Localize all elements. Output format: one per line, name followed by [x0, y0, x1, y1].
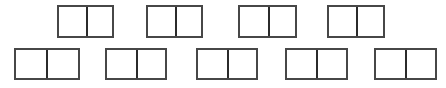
rectangle-top-3	[238, 5, 297, 38]
cell-divider-top-2	[175, 7, 177, 36]
figure-canvas	[0, 0, 446, 88]
cell-divider-top-4	[356, 7, 358, 36]
cell-divider-bottom-3	[227, 50, 229, 78]
rectangle-bottom-5	[374, 48, 437, 80]
rectangle-bottom-2	[105, 48, 167, 80]
cell-divider-bottom-1	[46, 50, 48, 78]
rectangle-top-4	[327, 5, 385, 38]
cell-divider-bottom-2	[136, 50, 138, 78]
cell-divider-top-3	[268, 7, 270, 36]
cell-divider-bottom-5	[405, 50, 407, 78]
cell-divider-top-1	[86, 7, 88, 36]
rectangle-top-1	[57, 5, 114, 38]
rectangle-bottom-3	[196, 48, 258, 80]
cell-divider-bottom-4	[316, 50, 318, 78]
rectangle-bottom-1	[14, 48, 80, 80]
rectangle-top-2	[146, 5, 203, 38]
rectangle-bottom-4	[285, 48, 348, 80]
